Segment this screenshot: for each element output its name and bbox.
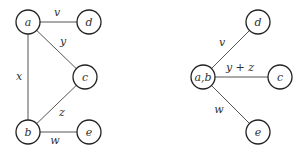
graph-contraction-diagram: vyxzwadcbevy + zwa,bdce (0, 0, 304, 154)
node-label: a (25, 16, 32, 29)
contracted-graph: vy + zwa,bdce (191, 10, 292, 144)
node-label: d (85, 16, 92, 29)
node-label: c (277, 71, 283, 84)
edge-label-ab-d: v (219, 36, 226, 49)
node-label: c (82, 71, 88, 84)
original-graph: vyxzwadcbe (16, 6, 101, 147)
edge-label-b-e: w (50, 134, 60, 147)
node-label: e (255, 126, 262, 139)
node-b: b (16, 120, 40, 144)
node-a: a (16, 10, 40, 34)
node-e: e (246, 120, 270, 144)
node-label: d (254, 16, 261, 29)
edge-label-b-c: z (58, 106, 65, 119)
node-c: c (73, 65, 97, 89)
node-c: c (268, 65, 292, 89)
node-d: d (246, 10, 270, 34)
node-label: a,b (194, 71, 211, 84)
node-label: b (24, 126, 31, 139)
edge-label-a-c: y (59, 35, 67, 48)
edge-label-a-b: x (16, 70, 23, 83)
node-label: e (86, 126, 93, 139)
edge-label-a-d: v (54, 6, 61, 19)
edge-label-ab-e: w (214, 103, 224, 116)
edge-label-ab-c: y + z (225, 61, 254, 74)
node-d: d (77, 10, 101, 34)
node-e: e (77, 120, 101, 144)
node-ab: a,b (191, 65, 215, 89)
